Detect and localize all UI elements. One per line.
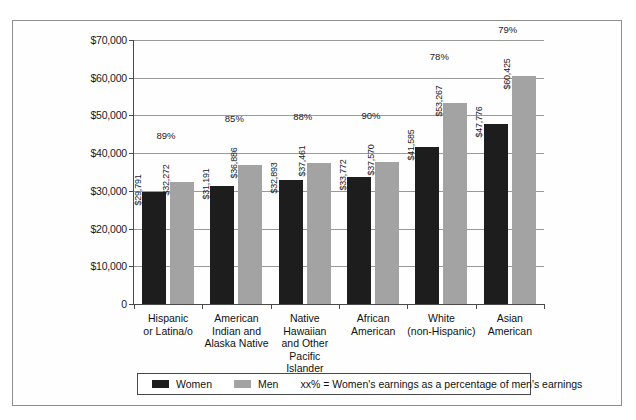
x-axis-tick-mark [544,304,545,309]
legend-entry-men: Men [234,378,278,390]
ratio-annotation: 79% [498,24,517,35]
bar-women[interactable]: $33,772 [347,177,371,304]
y-axis-tick-label: $10,000 [90,260,127,272]
x-axis-tick-mark [134,304,135,309]
y-axis-tick-label: $60,000 [90,72,127,84]
y-axis-tick-label: $30,000 [90,185,127,197]
bar-value-label: $32,893 [269,162,279,193]
x-axis-category-label: Asian American [476,312,544,337]
x-axis-tick-mark [476,304,477,309]
y-axis-tick-label: $20,000 [90,223,127,235]
bar-men[interactable]: $53,267 [443,103,467,304]
bar-women[interactable]: $41,585 [415,147,439,304]
ratio-annotation: 88% [293,111,312,122]
ratio-annotation: 78% [430,51,449,62]
bar-group: $29,791$32,27289% [134,40,202,304]
bars-layer: $29,791$32,27289%$31,191$36,88685%$32,89… [134,40,544,304]
legend-swatch-men [234,380,251,388]
bar-women[interactable]: $47,776 [484,124,508,304]
legend-label-women: Women [176,378,212,390]
bar-group: $41,585$53,26778% [407,40,475,304]
legend-swatch-women [152,380,169,388]
bar-group: $33,772$37,57090% [339,40,407,304]
bar-value-label: $29,791 [133,174,143,205]
bar-women[interactable]: $31,191 [210,186,234,304]
bar-value-label: $33,772 [338,159,348,190]
bar-group: $47,776$60,42579% [476,40,544,304]
y-axis-tick-label: $50,000 [90,109,127,121]
bar-value-label: $37,570 [366,145,376,176]
bar-value-label: $60,425 [502,59,512,90]
y-axis-tick-label: 0 [121,298,127,310]
x-axis-category-label: American Indian and Alaska Native [202,312,270,350]
bar-value-label: $31,191 [201,169,211,200]
bar-women[interactable]: $29,791 [142,192,166,304]
x-axis-tick-mark [271,304,272,309]
bar-men[interactable]: $36,886 [238,165,262,304]
y-axis-tick-label: $40,000 [90,147,127,159]
x-axis-tick-mark [339,304,340,309]
bar-value-label: $37,461 [297,145,307,176]
legend-label-men: Men [258,378,278,390]
bar-group: $31,191$36,88685% [202,40,270,304]
x-axis-category-label: Hispanic or Latina/o [134,312,202,337]
x-axis-category-label: African American [339,312,407,337]
bar-men[interactable]: $60,425 [512,76,536,304]
bar-value-label: $53,267 [434,86,444,117]
x-axis-category-label: Native Hawaiian and Other Pacific Island… [271,312,339,375]
ratio-annotation: 89% [156,130,175,141]
bar-value-label: $47,776 [474,106,484,137]
bar-value-label: $41,585 [406,130,416,161]
legend-note: xx% = Women's earnings as a percentage o… [300,378,582,390]
legend-entry-women: Women [152,378,212,390]
bar-men[interactable]: $37,570 [375,162,399,304]
bar-women[interactable]: $32,893 [279,180,303,304]
ratio-annotation: 85% [225,113,244,124]
bar-group: $32,893$37,46188% [271,40,339,304]
x-axis-tick-mark [407,304,408,309]
scan-artifact-strip [0,0,636,14]
x-axis-tick-mark [202,304,203,309]
x-axis-category-label: White (non-Hispanic) [407,312,475,337]
bar-men[interactable]: $32,272 [170,182,194,304]
figure-frame: $70,000$60,000$50,000$40,000$30,000$20,0… [12,20,622,406]
y-axis-tick-label: $70,000 [90,34,127,46]
bar-men[interactable]: $37,461 [307,163,331,304]
plot-area: $70,000$60,000$50,000$40,000$30,000$20,0… [133,40,544,305]
ratio-annotation: 90% [361,110,380,121]
chart-legend: Women Men xx% = Women's earnings as a pe… [137,373,531,395]
bar-value-label: $32,272 [161,165,171,196]
bar-value-label: $36,886 [229,147,239,178]
